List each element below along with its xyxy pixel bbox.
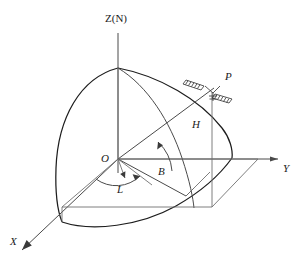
angle-arc-latitude-b-arrowhead [157,142,163,150]
diagram-canvas: Z(N) X Y O P H B L [0,0,305,275]
meridian-arc-through-point [118,68,194,208]
satellite-panel-right-hatch-3 [221,97,224,101]
geodetic-coordinate-diagram: Z(N) X Y O P H B L [0,0,305,275]
equatorial-arc-front [62,158,232,227]
y-axis-label: Y [283,162,291,174]
z-axis-label: Z(N) [105,12,127,25]
point-p-label: P [224,70,232,82]
latitude-label: B [158,165,165,177]
longitude-label: L [116,183,123,195]
origin-label: O [101,152,109,164]
x-axis-label: X [9,235,18,247]
x-axis [22,159,118,250]
satellite-panel-right-hatch-2 [218,96,221,100]
y-axis-arrowhead [270,156,278,161]
satellite-body-edge-2 [213,86,220,93]
satellite-panel-right-hatch-1 [215,95,218,99]
ground-projection-line [118,159,186,196]
satellite-panel-left-hatch-3 [192,83,195,87]
satellite-panel-left-hatch-2 [189,82,192,86]
satellite-panel-left-hatch-4 [195,84,198,88]
satellite-panel-left [183,80,204,90]
height-label: H [191,118,201,130]
plane-edge-left [62,159,118,207]
satellite-panel-left-hatch-5 [198,85,201,89]
meridian-arc-left [56,68,118,222]
satellite-panel-right-hatch-5 [227,99,230,103]
satellite-panel-right-hatch-4 [224,98,227,102]
satellite-panel-left-hatch-1 [186,81,189,85]
plane-edge-right [212,159,258,207]
